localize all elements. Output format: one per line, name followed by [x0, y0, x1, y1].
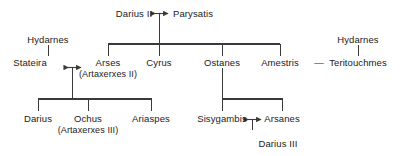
person-arsanes: Arsanes — [264, 113, 300, 124]
person-arses-alternate-name: (Artaxerxes II) — [79, 69, 137, 80]
person-ariaspes: Ariaspes — [132, 113, 170, 124]
person-ochus-alternate-name: (Artaxerxes III) — [58, 125, 119, 136]
person-teritouchmes: Teritouchmes — [329, 57, 387, 68]
person-amestris: Amestris — [261, 57, 299, 68]
person-darius-ii: Darius II — [116, 8, 152, 19]
person-hydarnes-left: Hydarnes — [27, 34, 68, 45]
family-tree-diagram: Darius II Parysatis Hydarnes Hydarnes St… — [0, 0, 400, 156]
link-amestris-teritouchmes: — — [314, 57, 324, 68]
person-stateira: Stateira — [13, 57, 47, 68]
person-ochus: Ochus — [74, 113, 102, 124]
person-ostanes: Ostanes — [204, 57, 240, 68]
person-darius: Darius — [24, 113, 52, 124]
person-sisygambis: Sisygambis — [197, 113, 247, 124]
person-cyrus: Cyrus — [146, 57, 171, 68]
person-arses: Arses — [96, 57, 121, 68]
person-parysatis: Parysatis — [173, 8, 213, 19]
person-hydarnes-right: Hydarnes — [337, 34, 378, 45]
person-darius-iii: Darius III — [258, 138, 297, 149]
